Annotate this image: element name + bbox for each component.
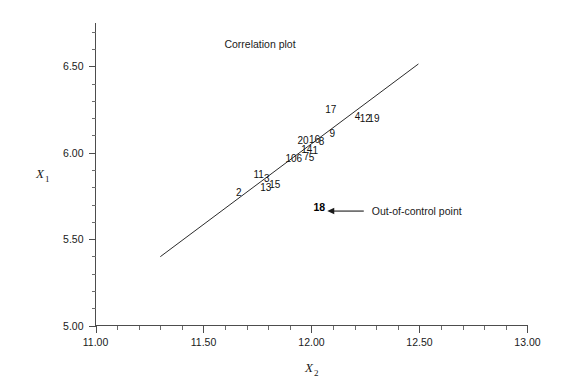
data-point-labels-group: 2113131510675141201689174121918 [236,104,380,213]
data-point-label: 10 [285,153,297,164]
y-axis-title-subscript: 1 [45,174,50,184]
y-tick-label: 5.00 [63,320,84,332]
y-axis-title-base: X [35,166,45,181]
x-tick-label: 13.00 [514,336,540,348]
y-tick-label: 6.50 [63,60,84,72]
data-point-label: 1 [313,145,319,156]
x-axis-title: X 2 [304,360,319,378]
correlation-plot-figure: 11.0011.5012.0012.5013.005.005.506.006.5… [0,0,563,389]
data-point-label: 11 [253,169,264,180]
x-axis-title-subscript: 2 [314,368,319,378]
chart-canvas: 11.0011.5012.0012.5013.005.005.506.006.5… [0,0,563,389]
axes-group [96,23,528,326]
data-point-label: 15 [269,179,281,190]
annotation-group: Out-of-control point [327,205,461,217]
x-tick-label: 12.00 [298,336,324,348]
data-point-label: 9 [329,128,335,139]
data-point-label: 19 [368,113,380,124]
x-tick-label: 11.00 [83,336,109,348]
data-point-label: 17 [325,104,337,115]
x-tick-label: 11.50 [191,336,217,348]
y-axis-title: X 1 [35,166,50,184]
tick-labels-group: 11.0011.5012.0012.5013.005.005.506.006.5… [63,60,541,347]
y-tick-label: 6.00 [63,147,84,159]
annotation-arrow-head [327,208,334,214]
tick-marks-group [89,33,528,333]
annotation-label: Out-of-control point [372,205,462,217]
data-point-label: 2 [236,187,242,198]
data-point-label: 6 [297,153,303,164]
x-tick-label: 12.50 [406,336,432,348]
data-point-label: 8 [319,136,325,147]
out-of-control-point-label: 18 [313,201,325,213]
chart-title: Correlation plot [224,38,295,50]
data-point-label: 20 [298,135,310,146]
y-tick-label: 5.50 [63,233,84,245]
x-axis-title-base: X [304,360,314,375]
